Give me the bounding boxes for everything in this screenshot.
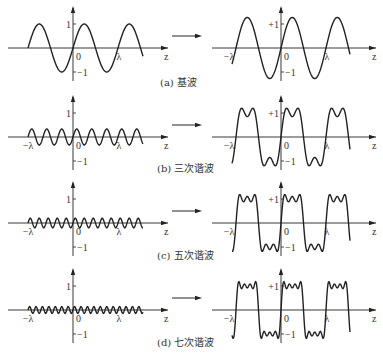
panel-d-left-label-zero: 0 (76, 313, 81, 324)
panel-b-left-label-minus1: −1 (77, 156, 88, 167)
panel-b-right-label-z: z (372, 140, 377, 151)
panel-b-left-label-zero: 0 (76, 140, 81, 151)
panel-a-left-label-zero: 0 (76, 51, 81, 62)
panel-c-arrow-icon (195, 209, 202, 213)
panel-b-left-label-lambda: λ (117, 140, 122, 151)
fourier-diagram: 1−10zλ+1−10zλ−λ1−10zλ−λ+1−10zλ−λ1−10zλ−λ… (0, 0, 383, 362)
panel-b-right-label-minus-lambda: −λ (224, 140, 235, 151)
caption-c: (c) 五次谐波 (157, 247, 214, 262)
panel-c-left-y-arrow-icon (71, 181, 75, 188)
panel-d-left-label-minus-lambda: −λ (23, 313, 34, 324)
panel-c-left-label-lambda: λ (117, 226, 122, 237)
panel-b-arrow-icon (195, 123, 202, 127)
panel-a-right-y-arrow-icon (279, 6, 283, 13)
panel-d-right-label-plus1: +1 (268, 281, 279, 292)
caption-b: (b) 三次谐波 (157, 160, 214, 175)
panel-c-right-label-zero: 0 (284, 226, 289, 237)
panel-c-right-z-arrow-icon (369, 221, 376, 225)
panel-d-left-y-arrow-icon (71, 268, 75, 275)
panel-a-right-label-plus1: +1 (268, 19, 279, 30)
panel-a-left-label-plus1: 1 (66, 19, 71, 30)
panel-c-right-label-z: z (372, 226, 377, 237)
panel-d-left-z-arrow-icon (161, 308, 168, 312)
panel-a-arrow-icon (195, 34, 202, 38)
panel-d-arrow-icon (195, 296, 202, 300)
panel-b-left-label-minus-lambda: −λ (23, 140, 34, 151)
panel-a-left-z-arrow-icon (161, 46, 168, 50)
panel-c-right-y-arrow-icon (279, 181, 283, 188)
panel-a-left-label-minus1: −1 (77, 67, 88, 78)
panel-b-right-label-plus1: +1 (268, 108, 279, 119)
panel-b-right-y-arrow-icon (279, 95, 283, 102)
panel-d-right-z-arrow-icon (369, 308, 376, 312)
panel-a-left-label-z: z (164, 51, 169, 62)
panel-b-left-y-arrow-icon (71, 95, 75, 102)
panel-c-right-label-minus1: −1 (285, 242, 296, 253)
panel-b-left-label-plus1: 1 (66, 108, 71, 119)
panel-a-right-label-minus1: −1 (285, 67, 296, 78)
panel-d-left-label-plus1: 1 (66, 281, 71, 292)
panel-d-left-label-lambda: λ (117, 313, 122, 324)
panel-c-left-label-minus-lambda: −λ (23, 226, 34, 237)
panel-c-left-label-minus1: −1 (77, 242, 88, 253)
panel-d-right-y-arrow-icon (279, 268, 283, 275)
panel-b-right-z-arrow-icon (369, 135, 376, 139)
panel-c-left-z-arrow-icon (161, 221, 168, 225)
panel-a-right-z-arrow-icon (369, 46, 376, 50)
caption-a: (a) 基波 (160, 74, 197, 89)
panel-b-right-label-zero: 0 (284, 140, 289, 151)
panel-b-right-label-minus1: −1 (285, 156, 296, 167)
panel-d-left-label-z: z (164, 313, 169, 324)
panel-c-left-label-plus1: 1 (66, 194, 71, 205)
panel-d-left-label-minus1: −1 (77, 329, 88, 340)
panel-d-right-label-z: z (372, 313, 377, 324)
panel-d-right-label-minus-lambda: −λ (224, 313, 235, 324)
panel-a-right-label-z: z (372, 51, 377, 62)
panel-c-right-label-plus1: +1 (268, 194, 279, 205)
panel-c-right-label-minus-lambda: −λ (224, 226, 235, 237)
panel-d-right-label-zero: 0 (284, 313, 289, 324)
panel-a-left-y-arrow-icon (71, 6, 75, 13)
panel-a-right-label-zero: 0 (284, 51, 289, 62)
panel-c-left-label-z: z (164, 226, 169, 237)
panel-b-left-z-arrow-icon (161, 135, 168, 139)
panel-d-right-label-minus1: −1 (285, 329, 296, 340)
caption-d: (d) 七次谐波 (157, 334, 214, 349)
panel-b-left-label-z: z (164, 140, 169, 151)
